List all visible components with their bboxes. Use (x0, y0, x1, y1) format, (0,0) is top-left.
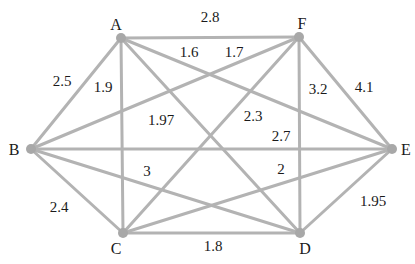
edge-weight-f-e: 4.1 (355, 79, 374, 95)
edge-a-f (121, 37, 299, 38)
edge-weight-b-c: 2.4 (50, 199, 69, 215)
edge-weight-a-b: 2.5 (53, 73, 72, 89)
edge-weight-c-e: 2 (277, 161, 285, 177)
weighted-graph-diagram: 2.82.51.91.61.971.72.33.24.12.732.421.81… (0, 0, 415, 264)
edge-weight-f-b: 1.7 (225, 44, 244, 60)
edge-weight-a-f: 2.8 (201, 9, 220, 25)
edge-f-d (299, 37, 300, 233)
edge-weight-c-d: 1.8 (204, 238, 223, 254)
node-b (26, 144, 36, 154)
node-label-a: A (110, 16, 122, 33)
edge-a-c (121, 38, 123, 233)
node-label-d: D (299, 240, 311, 257)
edge-d-e (300, 149, 392, 233)
edge-weight-b-e: 2.7 (272, 128, 291, 144)
node-label-b: B (9, 141, 20, 158)
node-label-f: F (298, 15, 307, 32)
edge-weight-a-c: 1.9 (94, 79, 113, 95)
edge-weight-d-e: 1.95 (360, 193, 386, 209)
edge-weight-f-d: 3.2 (309, 81, 328, 97)
node-label-c: C (111, 240, 122, 257)
edge-b-c (31, 149, 123, 233)
edges-layer (31, 37, 392, 233)
edge-weight-b-d: 3 (143, 163, 151, 179)
edge-weight-a-e: 1.6 (180, 44, 199, 60)
node-d (295, 228, 305, 238)
edge-weight-f-c: 2.3 (244, 108, 263, 124)
node-label-e: E (401, 141, 411, 158)
node-f (294, 32, 304, 42)
node-e (387, 144, 397, 154)
edge-weight-a-d: 1.97 (148, 112, 175, 128)
node-a (116, 33, 126, 43)
node-c (118, 228, 128, 238)
